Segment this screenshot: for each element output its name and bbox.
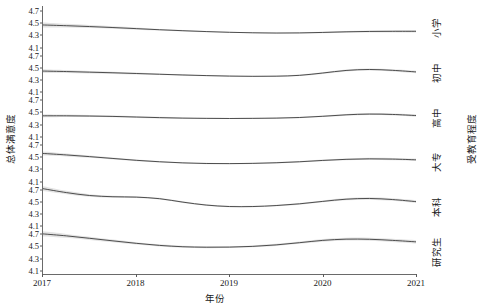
facet-panel-本科: 4.14.34.54.7本科	[19, 185, 456, 230]
trend-line	[43, 153, 416, 163]
facet-axis-title: 受教育程度	[463, 0, 479, 278]
facet-strip-高中: 高中	[416, 95, 456, 140]
y-tick-label: 4.5	[28, 198, 39, 207]
facet-strip-研究生: 研究生	[416, 229, 456, 274]
facet-strip-label: 高中	[429, 108, 443, 128]
x-tick-mark	[229, 274, 230, 277]
facet-strip-本科: 本科	[416, 185, 456, 230]
plot-area-大专	[42, 140, 416, 185]
x-tick-label: 2017	[33, 278, 51, 288]
facet-strip-初中: 初中	[416, 51, 456, 96]
plot-area-本科	[42, 185, 416, 230]
facet-panel-初中: 4.14.34.54.7初中	[19, 51, 456, 96]
y-tick-label: 4.7	[28, 96, 39, 105]
x-tick-label: 2021	[407, 278, 425, 288]
y-tick-label: 4.3	[28, 254, 39, 263]
x-tick-mark	[323, 274, 324, 277]
facet-strip-label: 小学	[429, 18, 443, 38]
y-tick-label: 4.3	[28, 120, 39, 129]
y-tick-label: 4.7	[28, 7, 39, 16]
y-tick-label: 4.5	[28, 19, 39, 28]
panel-grid: 4.14.34.54.7小学4.14.34.54.7初中4.14.34.54.7…	[19, 6, 456, 274]
y-tick-label: 4.3	[28, 31, 39, 40]
y-axis-ticks: 4.14.34.54.7	[19, 51, 42, 96]
y-axis-ticks: 4.14.34.54.7	[19, 140, 42, 185]
facet-panel-研究生: 4.14.34.54.7研究生	[19, 229, 456, 274]
y-tick-label: 4.3	[28, 76, 39, 85]
x-tick-label: 2019	[220, 278, 238, 288]
y-axis-ticks: 4.14.34.54.7	[19, 229, 42, 274]
y-tick-label: 4.7	[28, 51, 39, 60]
y-tick-label: 4.7	[28, 230, 39, 239]
y-axis-ticks: 4.14.34.54.7	[19, 95, 42, 140]
y-axis-ticks: 4.14.34.54.7	[19, 185, 42, 230]
x-axis-title-text: 年份	[205, 294, 225, 304]
facet-strip-小学: 小学	[416, 6, 456, 51]
x-tick-mark	[42, 274, 43, 277]
x-tick-mark	[416, 274, 417, 277]
y-tick-label: 4.7	[28, 185, 39, 194]
facet-panel-小学: 4.14.34.54.7小学	[19, 6, 456, 51]
x-tick-label: 2020	[314, 278, 332, 288]
y-tick-label: 4.5	[28, 153, 39, 162]
facet-line-chart: 总体满意度 受教育程度 4.14.34.54.7小学4.14.34.54.7初中…	[0, 0, 481, 306]
y-tick-label: 4.3	[28, 210, 39, 219]
facet-strip-label: 初中	[429, 63, 443, 83]
y-tick-label: 4.5	[28, 64, 39, 73]
y-tick-label: 4.3	[28, 165, 39, 174]
facet-strip-label: 本科	[429, 197, 443, 217]
facet-strip-大专: 大专	[416, 140, 456, 185]
plot-area-研究生	[42, 229, 416, 274]
x-tick-mark	[136, 274, 137, 277]
facet-panel-高中: 4.14.34.54.7高中	[19, 95, 456, 140]
confidence-ribbon	[43, 151, 416, 164]
facet-strip-label: 研究生	[429, 237, 443, 267]
y-tick-label: 4.5	[28, 242, 39, 251]
plot-area-初中	[42, 51, 416, 96]
y-axis-title-text: 总体满意度	[3, 114, 17, 164]
facet-axis-title-text: 受教育程度	[464, 114, 478, 164]
facet-strip-label: 大专	[429, 152, 443, 172]
plot-area-高中	[42, 95, 416, 140]
x-axis-title: 年份	[0, 291, 481, 305]
y-axis-ticks: 4.14.34.54.7	[19, 6, 42, 51]
x-tick-label: 2018	[127, 278, 145, 288]
y-tick-label: 4.5	[28, 108, 39, 117]
y-tick-label: 4.7	[28, 141, 39, 150]
facet-panel-大专: 4.14.34.54.7大专	[19, 140, 456, 185]
y-tick-label: 4.1	[28, 267, 39, 276]
plot-area-小学	[42, 6, 416, 51]
y-axis-title: 总体满意度	[2, 0, 18, 278]
confidence-ribbon	[43, 186, 416, 207]
